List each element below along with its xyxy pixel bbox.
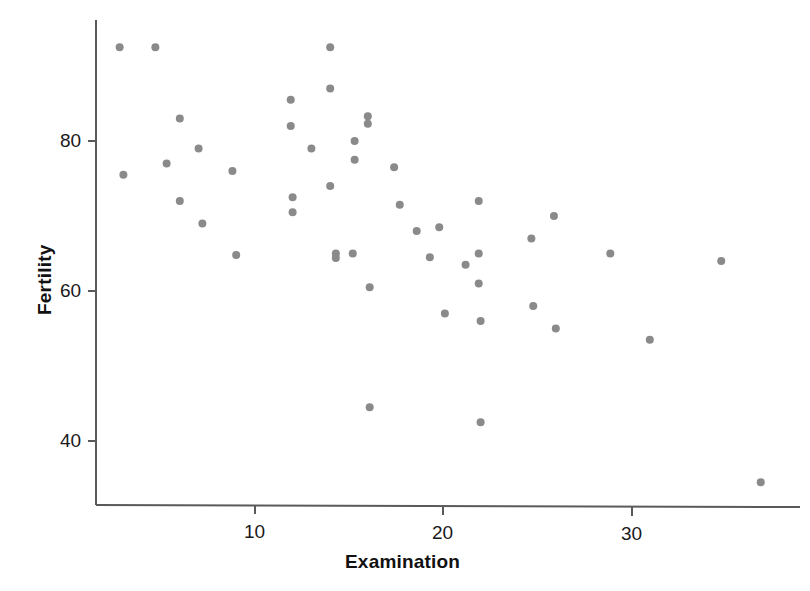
data-point: [176, 197, 184, 205]
data-point: [475, 250, 483, 258]
data-point: [349, 250, 357, 258]
data-point: [396, 201, 404, 209]
data-point: [390, 163, 398, 171]
data-point: [151, 43, 159, 51]
y-tick-label-80: 80: [60, 130, 81, 152]
data-point: [287, 96, 295, 104]
data-point: [289, 208, 297, 216]
data-point: [477, 317, 485, 325]
data-point: [717, 257, 725, 265]
data-point: [364, 120, 372, 128]
data-point: [232, 251, 240, 259]
data-point: [462, 261, 470, 269]
x-tick-label-30: 30: [621, 523, 642, 545]
plot-canvas: [0, 0, 810, 591]
data-point: [364, 112, 372, 120]
data-point: [606, 250, 614, 258]
data-point: [326, 85, 334, 93]
data-point: [552, 325, 560, 333]
data-point-group: [116, 43, 765, 486]
x-axis-line: [96, 505, 800, 507]
data-point: [475, 280, 483, 288]
data-point: [426, 253, 434, 261]
data-point: [119, 171, 127, 179]
data-point: [366, 403, 374, 411]
data-point: [287, 122, 295, 130]
axis-lines: [96, 20, 800, 507]
scatter-plot-figure: 80 60 40 10 20 30 Fertility Examination: [0, 0, 810, 591]
y-axis-ticks: [88, 141, 96, 441]
data-point: [475, 197, 483, 205]
data-point: [435, 223, 443, 231]
data-point: [195, 145, 203, 153]
data-point: [477, 418, 485, 426]
data-point: [163, 160, 171, 168]
data-point: [646, 336, 654, 344]
data-point: [198, 220, 206, 228]
data-point: [116, 43, 124, 51]
data-point: [176, 115, 184, 123]
data-point: [326, 43, 334, 51]
data-point: [441, 310, 449, 318]
data-point: [351, 137, 359, 145]
y-axis-title: Fertility: [34, 245, 56, 315]
data-point: [366, 283, 374, 291]
data-point: [527, 235, 535, 243]
data-point: [326, 182, 334, 190]
data-point: [228, 167, 236, 175]
y-tick-label-40: 40: [60, 430, 81, 452]
y-tick-label-60: 60: [60, 280, 81, 302]
data-point: [550, 212, 558, 220]
data-point: [289, 193, 297, 201]
x-tick-label-20: 20: [432, 522, 453, 544]
data-point: [529, 302, 537, 310]
x-axis-title: Examination: [345, 551, 460, 573]
x-tick-label-10: 10: [244, 521, 265, 543]
data-point: [332, 254, 340, 262]
data-point: [413, 227, 421, 235]
data-point: [307, 145, 315, 153]
data-point: [351, 156, 359, 164]
data-point: [757, 478, 765, 486]
